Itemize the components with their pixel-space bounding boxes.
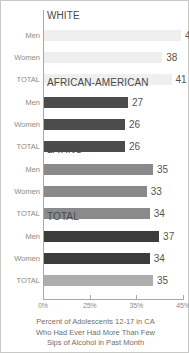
axis-tick-label: 35% (130, 302, 143, 309)
horizontal-axis-line (43, 299, 183, 300)
bar (44, 231, 159, 242)
bar (44, 30, 181, 41)
bar-row-label: Women (0, 185, 40, 198)
caption-line-2: Who Had Ever Had More Than Few (1, 328, 189, 339)
plot-area: 0%25%35%45% WHITEMen44Women38TOTAL41AFRI… (1, 1, 189, 317)
axis-tick-label: 25% (83, 302, 96, 309)
bar-row-label: Men (0, 96, 40, 109)
bar-row-label: Men (0, 230, 40, 243)
bar-row-label: TOTAL (0, 274, 40, 287)
bar-group-title: LATINO (47, 144, 83, 155)
chart-figure: 0%25%35%45% WHITEMen44Women38TOTAL41AFRI… (0, 0, 189, 353)
bar-row: Men37 (1, 230, 189, 243)
bar (44, 253, 150, 264)
bar-row-label: Women (0, 118, 40, 131)
bar-value-label: 33 (151, 185, 162, 198)
bar-value-label: 34 (154, 252, 165, 265)
bar-row-label: Women (0, 51, 40, 64)
bar-value-label: 27 (132, 96, 143, 109)
bar-group: TOTALMen37Women34TOTAL35 (1, 211, 189, 293)
bar-value-label: 35 (157, 163, 168, 176)
bar-row: Women33 (1, 185, 189, 198)
bar-value-label: 44 (185, 29, 189, 42)
chart-caption: Percent of Adolescents 12-17 in CA Who H… (1, 317, 189, 349)
bar (44, 97, 128, 108)
caption-line-3: Sips of Alcohol in Past Month (1, 338, 189, 349)
axis-tick-mark (90, 295, 91, 300)
bar-row: TOTAL35 (1, 274, 189, 287)
bar-group-title: WHITE (47, 10, 80, 21)
bar-value-label: 38 (166, 51, 177, 64)
bar-row: Men27 (1, 96, 189, 109)
axis-tick-mark (43, 295, 44, 300)
bar-group-title: AFRICAN-AMERICAN (47, 77, 149, 88)
bar (44, 164, 153, 175)
bar (44, 186, 147, 197)
bar-row: Women38 (1, 51, 189, 64)
axis-tick-label: 0% (38, 302, 48, 309)
bar-row: Men44 (1, 29, 189, 42)
bar-group-title: TOTAL (47, 211, 79, 222)
bar-value-label: 37 (163, 230, 174, 243)
axis-tick-mark (183, 295, 184, 300)
bar-row-label: Men (0, 163, 40, 176)
axis-tick-mark (136, 295, 137, 300)
bar-row: Women34 (1, 252, 189, 265)
bar-row: Women26 (1, 118, 189, 131)
bar-row: Men35 (1, 163, 189, 176)
bar-value-label: 26 (129, 118, 140, 131)
bar (44, 119, 125, 130)
bar (44, 275, 153, 286)
bar-row-label: Women (0, 252, 40, 265)
caption-line-1: Percent of Adolescents 12-17 in CA (1, 317, 189, 328)
axis-tick-label: 45% (176, 302, 189, 309)
bar-value-label: 35 (157, 274, 168, 287)
bar (44, 52, 162, 63)
bar-row-label: Men (0, 29, 40, 42)
